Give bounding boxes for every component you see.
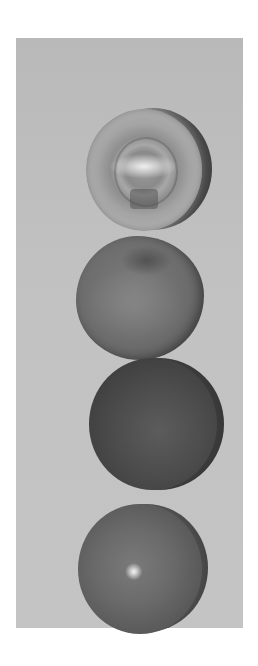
glass-ball-body (86, 109, 202, 231)
glossy-ball (78, 504, 202, 634)
glass-ball (86, 108, 212, 232)
photo-backdrop (16, 38, 243, 628)
crumpled-ball (76, 236, 204, 360)
matte-ball (89, 358, 217, 490)
glass-ball-refraction-dark (130, 189, 158, 209)
